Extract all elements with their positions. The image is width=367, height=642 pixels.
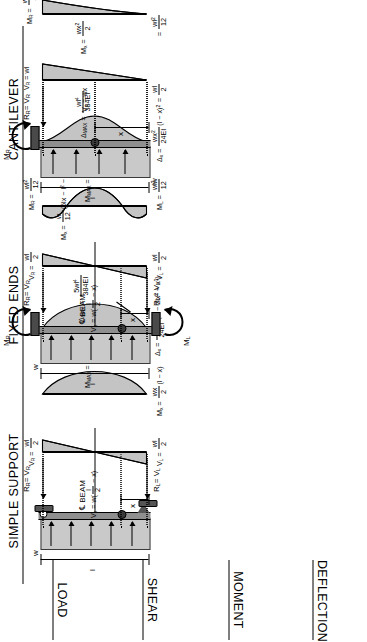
roller-plate-right: [34, 505, 53, 512]
end-moment-arrow-left: [156, 300, 186, 340]
end-moment-label-left: ML: [182, 336, 191, 346]
column-cantilever: CANTILEVER l w MR R: [0, 26, 367, 212]
moment-stub-label: = wl212: [150, 14, 166, 36]
span-label: l: [88, 197, 96, 199]
pin-plate-left: [138, 500, 157, 507]
shear-right-label: VR = wl2: [22, 437, 38, 466]
row-label-column: LOAD SHEAR MOMENT DEFLECTION: [0, 586, 367, 626]
column-fixed-ends: FIXED ENDS l w ℄ BEAM: [0, 212, 367, 398]
udl-label: w: [150, 178, 158, 184]
reaction-label-right: RR= VR: [22, 94, 31, 120]
x-distance-label: x: [128, 504, 136, 508]
shear-right-label: VR = wl: [22, 67, 30, 90]
shear-right-label: VR = wl2: [22, 251, 38, 280]
span-label: l: [88, 569, 96, 571]
shear-stub-label: = wl2: [150, 83, 166, 102]
shear-left-label: VL = wl2: [150, 251, 166, 280]
udl-label: w: [31, 550, 39, 556]
x-distance-label: x: [116, 132, 124, 136]
shear-general-label: Vx = w(l2 − x): [84, 471, 100, 518]
end-moment-label-right: MR: [2, 149, 11, 160]
section-marker: [117, 324, 126, 333]
shear-left-label: VL = wl2: [150, 437, 166, 466]
column-title-simple-support: SIMPLE SUPPORT: [6, 398, 23, 584]
moment-general-label: Mx = wx22: [74, 20, 90, 54]
reaction-label-right: RR= VR: [22, 466, 31, 492]
moment-right-label: MR = wl22: [20, 0, 36, 24]
end-moment-label-right: MR: [2, 335, 11, 346]
shear-general-label: Vx = wx: [80, 88, 88, 112]
end-moment-arrow-right: [8, 114, 38, 154]
x-distance-label: x: [128, 318, 136, 322]
section-marker: [117, 510, 126, 519]
span-label: l: [88, 383, 96, 385]
udl-label: w: [31, 364, 39, 370]
reaction-label-right: RR= VR: [22, 280, 31, 306]
shear-general-label: Vx = w(l2 − x): [84, 285, 100, 332]
column-simple-support: SIMPLE SUPPORT l w ℄ BEAM: [0, 398, 367, 584]
end-moment-arrow-right: [8, 300, 38, 340]
